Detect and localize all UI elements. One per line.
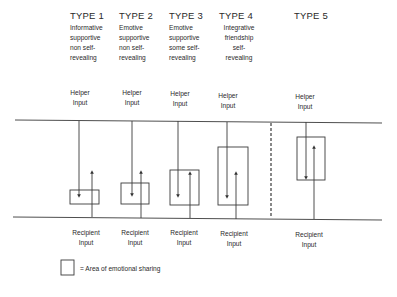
label-line: Recipient (110, 228, 160, 238)
type-3-sharing-box (170, 170, 199, 205)
bottom-boundary-line (13, 217, 382, 220)
label-line: Recipient (209, 229, 259, 239)
type-4-sharing-box (218, 147, 248, 205)
label-line: Input (110, 238, 160, 248)
top-boundary-line (15, 120, 382, 123)
recipient-input-label-2: Recipient Input (110, 228, 160, 248)
type-1-sharing-box (70, 190, 99, 204)
label-line: Recipient (159, 228, 209, 238)
legend-box-icon (61, 260, 74, 275)
type-2-sharing-box (121, 183, 149, 204)
legend-text: = Area of emotional sharing (80, 265, 160, 272)
label-line: Input (209, 239, 259, 249)
recipient-input-label-3: Recipient Input (159, 228, 209, 248)
label-line: Recipient (284, 230, 334, 240)
recipient-input-label-1: Recipient Input (61, 228, 111, 248)
diagram-canvas (0, 0, 397, 297)
label-line: Input (61, 238, 111, 248)
recipient-input-label-4: Recipient Input (209, 229, 259, 249)
label-line: Recipient (61, 228, 111, 238)
type-5-sharing-box (297, 137, 325, 180)
recipient-input-label-5: Recipient Input (284, 230, 334, 250)
label-line: Input (159, 238, 209, 248)
label-line: Input (284, 240, 334, 250)
